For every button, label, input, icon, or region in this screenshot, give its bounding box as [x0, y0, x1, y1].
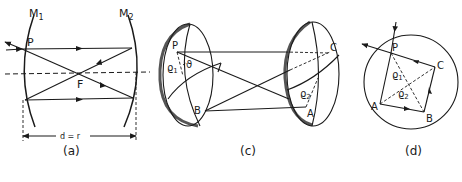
right-mirror-latitude [287, 55, 339, 90]
ray-b-to-c [205, 70, 290, 111]
label-rho1: ϱ1 [167, 62, 178, 75]
outgoing-ray [5, 42, 22, 49]
label-m2: M2 [119, 7, 134, 22]
label-a: A [371, 101, 378, 112]
direction-arrow-icon [393, 26, 399, 32]
label-c: C [437, 60, 444, 71]
label-theta: ϑ [186, 59, 192, 70]
edge-a-p [380, 53, 391, 104]
mirror-resonator-figure: M1 M2 P F d = r (a) P ϱ1 ϑ B C [0, 0, 462, 182]
caption-a: (a) [63, 144, 80, 158]
label-b: B [426, 113, 433, 124]
label-rho2: ϱ2 [398, 88, 409, 101]
incoming-ray [6, 49, 22, 50]
rho1-line [177, 52, 183, 76]
projection-c [285, 52, 329, 53]
direction-arrow-icon [404, 106, 410, 111]
mirror-m1 [24, 15, 35, 127]
mirror-m2 [124, 15, 137, 127]
direction-arrow-icon [76, 97, 83, 102]
ray-b-to-a [205, 107, 306, 111]
label-f: F [77, 78, 83, 91]
label-m1: M1 [29, 7, 44, 22]
caption-d: (d) [405, 144, 422, 158]
label-distance: d = r [60, 132, 81, 141]
direction-arrow-icon [100, 82, 106, 88]
panel-c-spherical-mirrors-3d: P ϱ1 ϑ B C ϱ2 A (c) [160, 22, 339, 158]
projection-c-diag [290, 52, 330, 70]
label-p: P [27, 36, 34, 49]
caption-c: (c) [240, 144, 256, 158]
direction-arrow-icon [96, 59, 102, 65]
label-rho2: ϱ2 [300, 88, 311, 101]
panel-a-confocal-resonator: M1 M2 P F d = r (a) [5, 7, 150, 158]
outgoing-ray [362, 44, 391, 53]
left-mirror-rim [160, 24, 198, 126]
direction-arrow-icon [76, 46, 83, 51]
label-c: C [330, 42, 337, 53]
label-b: B [194, 105, 201, 116]
panel-d-mirror-face-view: P C A B ϱ1 ϱ2 (d) [362, 22, 458, 158]
label-a: A [307, 108, 314, 119]
edge-b-a [380, 104, 424, 112]
label-p: P [392, 42, 398, 53]
label-p: P [172, 40, 178, 51]
edge-p-c [391, 53, 435, 67]
